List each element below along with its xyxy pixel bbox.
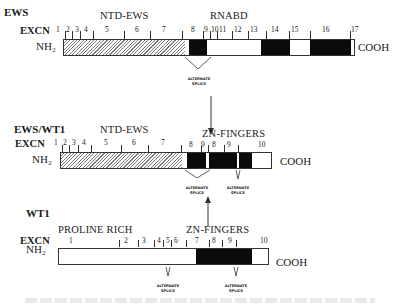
exon-boundary-tick [124,31,125,39]
proline-rich-domain [59,249,196,264]
exon-boundary-tick [163,240,164,247]
ews-protein-bar [63,39,355,56]
exon-boundary-tick [80,31,81,39]
exon-number: 10 [258,140,266,149]
exon-boundary-tick [222,240,223,247]
exon-number: 8 [212,140,216,149]
c-terminus-label: COOH [280,155,311,167]
exon-boundary-tick [224,145,225,152]
exon-boundary-tick [91,145,92,152]
alternate-splice-connector [180,56,220,76]
exon-boundary-tick [208,145,209,152]
exon-boundary-tick [217,31,218,39]
exon-boundary-tick [186,240,187,247]
exon-boundary-tick [209,240,210,247]
exon-number: 15 [291,25,299,34]
exon-number: 4 [82,138,86,147]
alternate-splice-label: ALTERNATE SPLICE [178,186,216,196]
exon-number: 1 [56,25,60,34]
exon-number: 6 [132,138,136,147]
exon-number: 3 [75,25,79,34]
alternate-splice-label: ALTERNATE SPLICE [149,284,187,294]
exon-boundary-tick [62,145,63,152]
exon-boundary-tick [65,31,66,39]
excn-label: EXCN [15,138,45,149]
exon-boundary-tick [138,240,139,247]
exon-number: 1 [54,138,58,147]
exon-boundary-tick [148,145,149,152]
exon-number: 7 [161,138,165,147]
exon-boundary-tick [182,31,183,39]
n-terminus-label: NH₂ [32,153,52,165]
exon-boundary-tick [171,240,172,247]
exon-number: 9 [204,25,208,34]
exon-boundary-tick [69,145,70,152]
exon-boundary-tick [266,31,267,39]
exon-number: 9 [228,236,232,245]
exon-number: 2 [124,236,128,245]
exon-number: 17 [351,25,359,34]
exon-number: 2 [63,138,67,147]
excn-label: EXCN [20,25,50,36]
panel-title-ews-wt1: EWS/WT1 [14,123,65,135]
exon-boundary-tick [203,31,204,39]
exon-boundary-tick [232,31,233,39]
exon-boundary-tick [236,240,237,247]
panel-title-wt1: WT1 [26,207,50,219]
ntd-ews-domain [64,40,185,55]
region-label-zn-fingers: ZN-FINGERS [186,224,249,235]
splice-site-marker-icon [234,169,242,181]
exon-number: 4 [84,25,88,34]
exon-boundary-tick [93,31,94,39]
exon-number: 6 [174,236,178,245]
n-terminus-label: NH₂ [26,243,46,255]
region-label-zn-fingers: ZN-FINGERS [202,128,265,139]
c-terminus-label: COOH [276,256,307,268]
exon-number: 11 [219,25,226,34]
zn-fingers-domain [196,249,252,264]
n-terminus-label: NH₂ [36,40,56,52]
exon-boundary-tick [78,145,79,152]
splice-site-marker-icon [232,266,240,278]
zn-finger-block [209,153,237,168]
alternate-splice-label: ALTERNATE SPLICE [180,77,218,87]
exon-number: 6 [135,25,139,34]
exon-number: 12 [234,25,242,34]
exon-number: 13 [250,25,258,34]
exon-boundary-tick [210,31,211,39]
exon-8-block [187,153,206,168]
exon-number: 9 [227,140,231,149]
exon-number: 3 [142,236,146,245]
region-label-ntd-ews: NTD-EWS [100,10,149,21]
exon-number: 10 [260,236,268,245]
exon-number: 2 [66,25,70,34]
exon-number: 16 [322,25,330,34]
alternate-splice-label: ALTERNATE SPLICE [219,186,257,196]
exon-number: 8 [212,236,216,245]
exon-number: 7 [195,236,199,245]
exon-16-block [310,40,351,55]
exon-number: 3 [72,138,76,147]
exon-number: 8 [189,140,193,149]
wt1-protein-bar [58,248,269,265]
exon-boundary-tick [181,145,182,152]
exon-number: 5 [166,236,170,245]
exon-8-block [189,40,207,55]
exon-boundary-tick [238,145,239,152]
alternate-splice-label: ALTERNATE SPLICE [217,284,255,294]
exon-boundary-tick [72,31,73,39]
zn-finger-block [239,153,252,168]
arrow-up-icon [204,196,212,226]
ews-wt1-fusion-bar [60,152,272,169]
exon-boundary-tick [119,240,120,247]
exon-boundary-tick [289,31,290,39]
exon-number: 1 [69,236,73,245]
exon-boundary-tick [310,31,311,39]
exon-number: 8 [191,25,195,34]
region-label-rnabd: RNABD [210,10,248,21]
exon-boundary-tick [150,31,151,39]
panel-title-ews: EWS [4,6,28,18]
splice-site-marker-icon [164,266,172,278]
exon-boundary-tick [248,31,249,39]
exon-number: 5 [104,138,108,147]
